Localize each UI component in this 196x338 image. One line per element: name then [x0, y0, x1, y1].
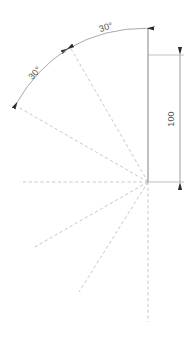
dimension-label-100: 100 [166, 111, 176, 127]
angle-label-lower: 30° [26, 64, 43, 81]
linear-dimension-100: 100 [148, 55, 184, 182]
technical-drawing-canvas: 30° 30° 100 [0, 0, 196, 338]
drawing-svg: 30° 30° 100 [0, 0, 196, 338]
ray-30-up [18, 107, 148, 182]
radial-ray-group [18, 47, 148, 322]
angle-arc-group [18, 28, 147, 101]
ray-60-up [70, 47, 148, 182]
ray-30-down [33, 182, 148, 248]
arc-segment-lower [18, 50, 67, 102]
ray-60-down [79, 182, 148, 292]
